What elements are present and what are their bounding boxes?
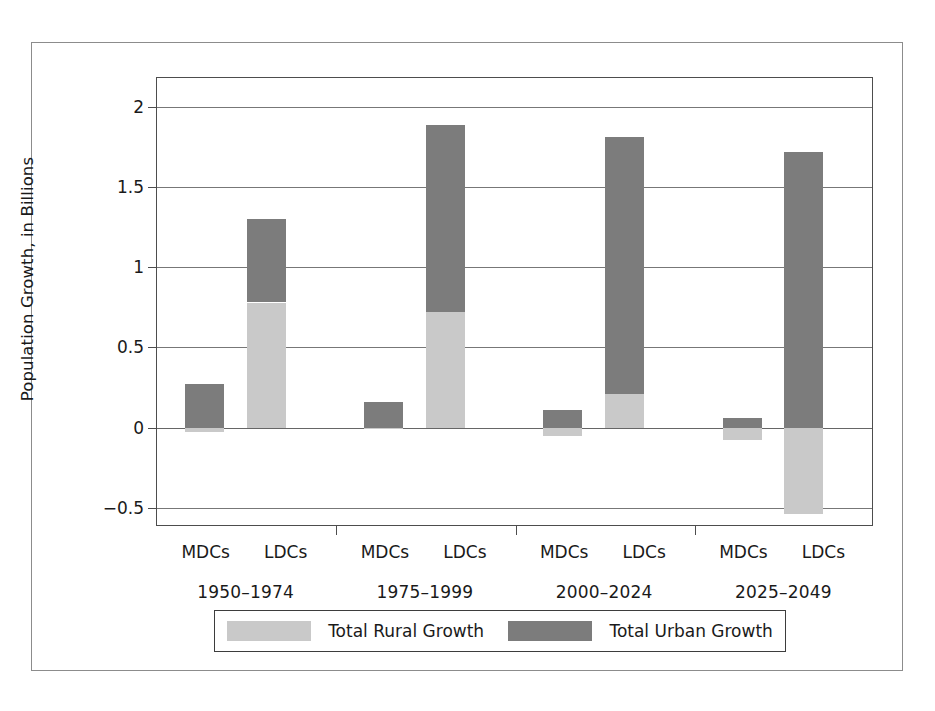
y-tick-0 <box>148 428 157 429</box>
bar-segment-rural <box>784 428 823 515</box>
bar-segment-rural <box>426 312 465 427</box>
y-tick-label: 0.5 <box>117 339 144 356</box>
x-axis-category-label: MDCs <box>712 544 774 561</box>
y-tick--0-5 <box>148 508 157 509</box>
x-axis-category-label: LDCs <box>613 544 675 561</box>
x-axis-category-label: MDCs <box>533 544 595 561</box>
bar-segment-rural <box>723 428 762 441</box>
gridline-1-5 <box>157 187 872 188</box>
x-axis-group-3: MDCsLDCs2000–2024 <box>515 544 694 601</box>
x-axis-period-label: 2000–2024 <box>515 584 694 601</box>
y-axis-title: Population Growth, in Billions <box>18 129 38 429</box>
y-tick-label: 1 <box>133 259 144 276</box>
bar-segment-rural <box>247 303 286 428</box>
x-tick-separator <box>336 525 337 535</box>
x-axis-category-pair: MDCsLDCs <box>694 544 873 561</box>
x-axis-category-pair: MDCsLDCs <box>156 544 335 561</box>
bar-segment-urban <box>247 219 286 302</box>
figure-frame: Population Growth, in Billions 21.510.50… <box>31 42 903 671</box>
bar-segment-urban <box>723 418 762 428</box>
x-axis-period-label: 1950–1974 <box>156 584 335 601</box>
legend-label: Total Rural Growth <box>328 623 484 640</box>
legend-label: Total Urban Growth <box>609 623 772 640</box>
bar-segment-urban <box>605 137 644 394</box>
x-tick-separator <box>516 525 517 535</box>
bar-segment-rural <box>543 428 582 436</box>
x-axis-category-label: LDCs <box>255 544 317 561</box>
bar-segment-urban <box>543 410 582 428</box>
x-axis-category-label: LDCs <box>434 544 496 561</box>
x-axis-group-1: MDCsLDCs1950–1974 <box>156 544 335 601</box>
y-tick-1 <box>148 267 157 268</box>
x-axis-category-pair: MDCsLDCs <box>335 544 514 561</box>
x-axis-period-label: 2025–2049 <box>694 584 873 601</box>
bar-segment-rural <box>605 394 644 428</box>
y-tick-2 <box>148 107 157 108</box>
bar-segment-urban <box>426 125 465 313</box>
x-axis-group-4: MDCsLDCs2025–2049 <box>694 544 873 601</box>
gridline--0-5 <box>157 508 872 509</box>
legend-swatch <box>508 621 592 641</box>
y-tick-label: 0 <box>133 419 144 436</box>
legend-item: Total Rural Growth <box>227 621 484 641</box>
bar-segment-urban <box>364 402 403 428</box>
legend-item: Total Urban Growth <box>508 621 772 641</box>
y-tick-label: 1.5 <box>117 179 144 196</box>
bar-segment-urban <box>185 384 224 427</box>
gridline-0 <box>157 428 872 429</box>
bar-segment-rural <box>364 428 403 430</box>
x-axis-category-label: MDCs <box>175 544 237 561</box>
y-tick-label: −0.5 <box>103 499 144 516</box>
x-axis-period-label: 1975–1999 <box>335 584 514 601</box>
chart-legend: Total Rural GrowthTotal Urban Growth <box>214 610 786 652</box>
x-axis-category-label: MDCs <box>354 544 416 561</box>
gridline-2 <box>157 107 872 108</box>
x-tick-separator <box>695 525 696 535</box>
x-axis-category-pair: MDCsLDCs <box>515 544 694 561</box>
plot-area: 21.510.50−0.5 <box>156 77 873 526</box>
y-tick-1-5 <box>148 187 157 188</box>
bar-segment-rural <box>185 428 224 433</box>
bar-segment-urban <box>784 152 823 428</box>
y-tick-label: 2 <box>133 98 144 115</box>
x-axis-category-label: LDCs <box>792 544 854 561</box>
legend-swatch <box>227 621 311 641</box>
x-axis-group-2: MDCsLDCs1975–1999 <box>335 544 514 601</box>
y-tick-0-5 <box>148 347 157 348</box>
